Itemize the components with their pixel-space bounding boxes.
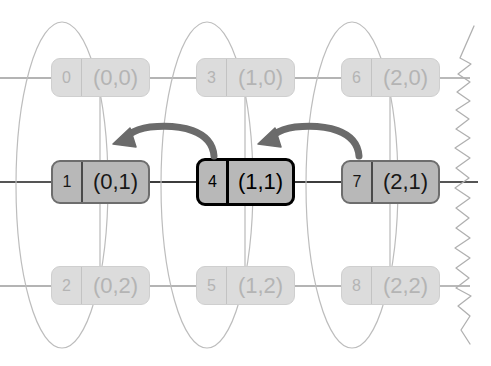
node-2[interactable]: 2 (0,2) (51, 266, 150, 305)
node-2-label: (0,2) (82, 267, 149, 304)
node-7[interactable]: 7 (2,1) (341, 160, 440, 204)
node-6[interactable]: 6 (2,0) (341, 58, 440, 97)
node-8[interactable]: 8 (2,2) (341, 266, 440, 305)
node-3-label: (1,0) (227, 59, 294, 96)
node-2-id: 2 (52, 267, 82, 304)
node-3[interactable]: 3 (1,0) (196, 58, 295, 97)
node-7-label: (2,1) (373, 162, 438, 202)
node-0-label: (0,0) (82, 59, 149, 96)
node-6-id: 6 (342, 59, 372, 96)
node-8-id: 8 (342, 267, 372, 304)
node-4[interactable]: 4 (1,1) (196, 158, 295, 206)
node-3-id: 3 (197, 59, 227, 96)
node-4-id: 4 (199, 161, 229, 203)
grid-graph-figure: 0 (0,0) 1 (0,1) 2 (0,2) 3 (1,0) 4 (1,1) … (0, 0, 491, 366)
node-7-id: 7 (343, 162, 373, 202)
node-4-label: (1,1) (229, 161, 292, 203)
node-6-label: (2,0) (372, 59, 439, 96)
node-5-label: (1,2) (227, 267, 294, 304)
node-5[interactable]: 5 (1,2) (196, 266, 295, 305)
node-5-id: 5 (197, 267, 227, 304)
node-0[interactable]: 0 (0,0) (51, 58, 150, 97)
node-0-id: 0 (52, 59, 82, 96)
node-8-label: (2,2) (372, 267, 439, 304)
node-1-label: (0,1) (83, 162, 148, 202)
node-1[interactable]: 1 (0,1) (51, 160, 150, 204)
node-1-id: 1 (53, 162, 83, 202)
